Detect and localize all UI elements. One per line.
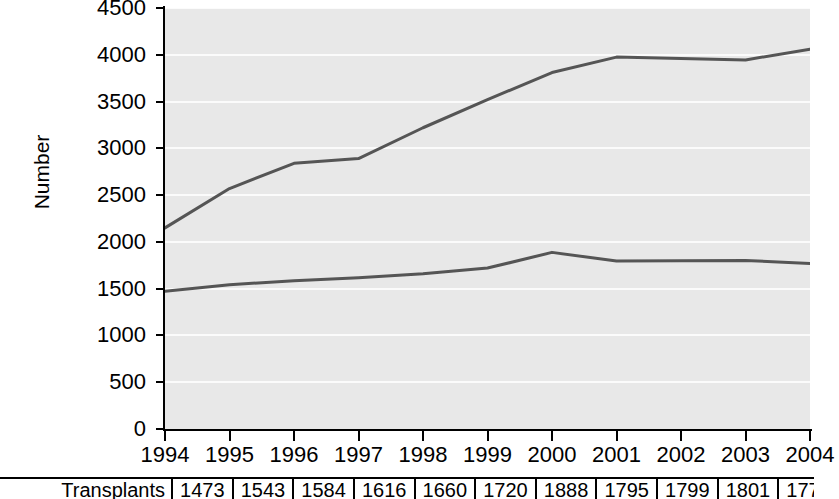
x-axis-tick-label: 2002 <box>646 442 716 468</box>
series-line <box>165 252 810 291</box>
y-axis-tick-label: 2500 <box>62 184 146 206</box>
x-axis-tick-mark <box>293 431 295 441</box>
x-axis-tick-label: 1997 <box>324 442 394 468</box>
x-axis-tick-mark <box>358 431 360 441</box>
x-axis-tick-label: 2003 <box>711 442 781 468</box>
table-cell: 1473 <box>172 479 233 499</box>
x-axis-tick-marks <box>165 431 810 441</box>
table-row-label: Transplants <box>0 479 172 499</box>
x-axis-tick-label: 2000 <box>517 442 587 468</box>
table-cell: 1770 <box>778 479 814 499</box>
table-cell: 1888 <box>536 479 597 499</box>
x-axis-tick-mark <box>616 431 618 441</box>
data-table-grid: Transplants 1473154315841616166017201888… <box>0 479 814 499</box>
table-cell: 1660 <box>415 479 476 499</box>
x-axis-tick-label: 1995 <box>195 442 265 468</box>
y-axis-title: Number <box>30 102 54 242</box>
y-axis-tick-label: 0 <box>62 418 146 440</box>
table-cell: 1720 <box>475 479 536 499</box>
table-cell: 1543 <box>233 479 294 499</box>
y-axis-tick-label: 1000 <box>62 324 146 346</box>
table-cell: 1799 <box>657 479 718 499</box>
table-cell: 1584 <box>293 479 354 499</box>
y-axis-tick-label: 2000 <box>62 231 146 253</box>
x-axis-tick-mark <box>551 431 553 441</box>
y-axis-tick-label: 4000 <box>62 44 146 66</box>
series-line <box>165 49 810 228</box>
data-table: Transplants 1473154315841616166017201888… <box>0 477 814 499</box>
x-axis-tick-label: 1994 <box>130 442 200 468</box>
x-axis-tick-mark <box>487 431 489 441</box>
x-axis-tick-label: 1998 <box>388 442 458 468</box>
table-cell: 1801 <box>718 479 779 499</box>
x-axis-tick-label: 2001 <box>582 442 652 468</box>
y-axis-tick-label: 500 <box>62 371 146 393</box>
x-axis-tick-mark <box>164 431 166 441</box>
y-axis-tick-label: 4500 <box>62 0 146 19</box>
x-axis-tick-mark <box>745 431 747 441</box>
x-axis-tick-label: 1996 <box>259 442 329 468</box>
y-axis-tick-label: 3500 <box>62 91 146 113</box>
table-cell: 1795 <box>596 479 657 499</box>
table-cell: 1616 <box>354 479 415 499</box>
x-axis-tick-label: 1999 <box>453 442 523 468</box>
y-axis-tick-label: 1500 <box>62 278 146 300</box>
plot-area <box>165 8 810 429</box>
x-axis-tick-label: 2004 <box>775 442 839 468</box>
y-axis-tick-labels: 050010001500200025003000350040004500 <box>62 0 146 440</box>
x-axis-tick-mark <box>680 431 682 441</box>
x-axis-tick-labels: 1994199519961997199819992000200120022003… <box>165 442 810 470</box>
table-row: Transplants 1473154315841616166017201888… <box>0 479 814 499</box>
x-axis-tick-mark <box>229 431 231 441</box>
x-axis-tick-mark <box>809 431 811 441</box>
x-axis-tick-mark <box>422 431 424 441</box>
y-axis-tick-label: 3000 <box>62 137 146 159</box>
series-lines <box>165 8 810 429</box>
